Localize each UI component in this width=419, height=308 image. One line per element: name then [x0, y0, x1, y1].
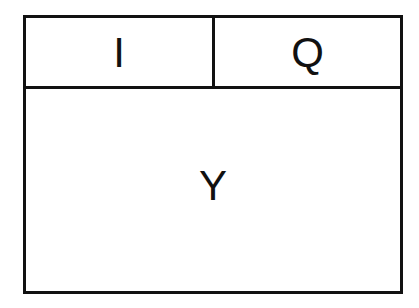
cell-i: I	[26, 18, 212, 86]
cell-y-label: Y	[199, 165, 227, 207]
cell-y: Y	[26, 89, 400, 291]
cell-i-label: I	[113, 32, 125, 74]
diagram-frame: I Q Y	[23, 15, 403, 294]
cell-q-label: Q	[291, 32, 324, 74]
cell-q: Q	[215, 18, 400, 86]
